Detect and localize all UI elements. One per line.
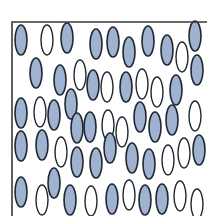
filled-particle [15,177,27,207]
filled-particle [189,21,201,51]
filled-particle [48,168,60,198]
open-particle [151,77,163,107]
filled-particle [142,26,154,56]
filled-particle [120,72,132,102]
filled-particle [143,149,155,179]
filled-particle [84,112,96,142]
filled-particle [90,29,102,59]
filled-particle [36,130,48,160]
filled-particle [15,131,27,161]
open-particle [189,101,201,131]
filled-particle [71,113,83,143]
open-particle [178,138,190,168]
filled-particle [156,184,168,214]
open-particle [116,117,128,147]
filled-particle [123,37,135,67]
filled-particle [126,143,138,173]
filled-particle [149,112,161,142]
open-particle [176,42,188,72]
filled-particle [54,65,66,95]
filled-particle [87,70,99,100]
filled-particle [193,135,205,165]
particle-group [15,21,205,216]
particle-diagram [0,0,207,216]
filled-particle [15,25,27,55]
filled-particle [134,102,146,132]
open-particle [85,186,97,216]
open-particle [174,181,186,211]
open-particle [136,69,148,99]
filled-particle [170,75,182,105]
filled-particle [139,185,151,215]
open-particle [74,60,86,90]
open-particle [34,97,46,127]
filled-particle [106,184,118,214]
filled-particle [107,27,119,57]
filled-particle [161,35,173,65]
filled-particle [64,185,76,215]
open-particle [55,137,67,167]
open-particle [162,145,174,175]
filled-particle [191,55,203,85]
filled-particle [90,148,102,178]
filled-particle [61,23,73,53]
filled-particle [30,58,42,88]
filled-particle [15,98,27,128]
open-particle [191,189,203,216]
filled-particle [71,147,83,177]
open-particle [101,72,113,102]
open-particle [36,185,48,215]
filled-particle [166,105,178,135]
filled-particle [104,133,116,163]
open-particle [41,25,53,55]
open-particle [123,180,135,210]
filled-particle [48,100,60,130]
